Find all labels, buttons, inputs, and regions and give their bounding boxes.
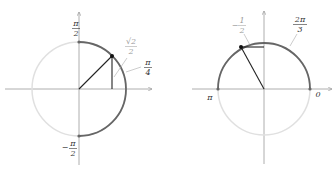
svg-text:1: 1 — [239, 16, 244, 25]
svg-text:2π: 2π — [294, 15, 306, 24]
svg-text:4: 4 — [144, 68, 150, 77]
svg-text:3: 3 — [297, 25, 302, 34]
label-neg-pi-over-2: − π 2 — [62, 139, 77, 158]
left-unit-circle: π 2 √2 2 π 4 − π 2 — [5, 12, 152, 165]
svg-text:π: π — [69, 139, 76, 148]
value-leader — [244, 34, 250, 45]
point-marker — [110, 54, 114, 58]
top-dot — [77, 40, 80, 43]
label-2pi-over-3: 2π 3 — [293, 15, 307, 34]
svg-text:π: π — [72, 19, 79, 28]
zero-dot — [308, 87, 311, 90]
label-neg-one-half: − 1 2 — [232, 16, 246, 35]
svg-text:−: − — [62, 143, 69, 152]
bottom-dot — [77, 134, 80, 137]
pi-dot — [216, 87, 219, 90]
label-pi: π — [206, 93, 213, 102]
svg-text:2: 2 — [69, 149, 75, 158]
angle-leader — [290, 34, 297, 46]
label-sqrt2-over-2: √2 2 — [125, 37, 137, 56]
label-pi-over-4: π 4 — [144, 58, 152, 77]
radius-line — [241, 47, 264, 89]
svg-text:2: 2 — [72, 29, 78, 38]
point-marker — [239, 45, 243, 49]
diagram-canvas: π 2 √2 2 π 4 − π 2 — [0, 0, 335, 170]
label-zero: 0 — [315, 90, 320, 99]
svg-text:2: 2 — [238, 26, 244, 35]
svg-text:2: 2 — [127, 47, 133, 56]
angle-leader — [126, 67, 141, 72]
svg-text:−: − — [232, 21, 239, 30]
radius-line — [79, 56, 112, 89]
svg-text:√2: √2 — [126, 37, 136, 46]
svg-text:π: π — [144, 58, 151, 67]
right-unit-circle: − 1 2 2π 3 π 0 — [192, 11, 332, 164]
